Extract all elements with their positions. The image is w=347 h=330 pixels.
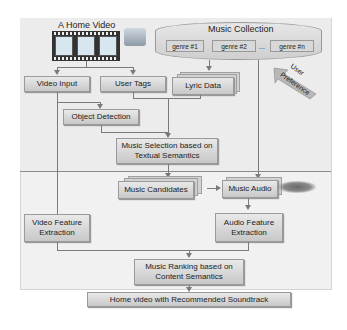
music-audio-node: Music Audio [222, 180, 278, 198]
music-ranking-line2: Content Semantics [155, 272, 223, 282]
music-selection-node: Music Selection based on Textual Semanti… [116, 138, 218, 164]
genre-1: genre #1 [166, 40, 204, 52]
video-input-node: Video Input [24, 76, 90, 92]
music-candidates-node: Music Candidates [118, 181, 194, 199]
video-feature-line2: Extraction [39, 228, 75, 238]
object-detection-node: Object Detection [63, 109, 139, 125]
lyric-data-node: Lyric Data [172, 77, 234, 95]
user-tags-node: User Tags [100, 76, 166, 92]
music-ranking-line1: Music Ranking based on [145, 262, 233, 272]
genre-2: genre #2 [212, 40, 256, 52]
home-video-title: A Home Video [58, 20, 115, 30]
genre-n: genre #n [270, 40, 314, 52]
genre-ellipsis: ... [259, 43, 265, 50]
music-collection-title: Music Collection [208, 24, 274, 34]
music-selection-line1: Music Selection based on [121, 141, 212, 151]
audio-feature-line2: Extraction [231, 228, 267, 238]
music-ranking-node: Music Ranking based on Content Semantics [134, 259, 244, 285]
audio-waveform-icon [278, 181, 316, 193]
output-node: Home video with Recommended Soundtrack [87, 292, 291, 307]
camcorder-icon [124, 28, 146, 46]
audio-feature-line1: Audio Feature [224, 218, 274, 228]
video-feature-line1: Video Feature [32, 218, 82, 228]
film-strip-icon [52, 31, 120, 61]
stage-divider [20, 171, 331, 172]
music-selection-line2: Textual Semantics [135, 151, 200, 161]
audio-feature-extraction-node: Audio Feature Extraction [215, 213, 283, 242]
video-feature-extraction-node: Video Feature Extraction [24, 214, 90, 242]
